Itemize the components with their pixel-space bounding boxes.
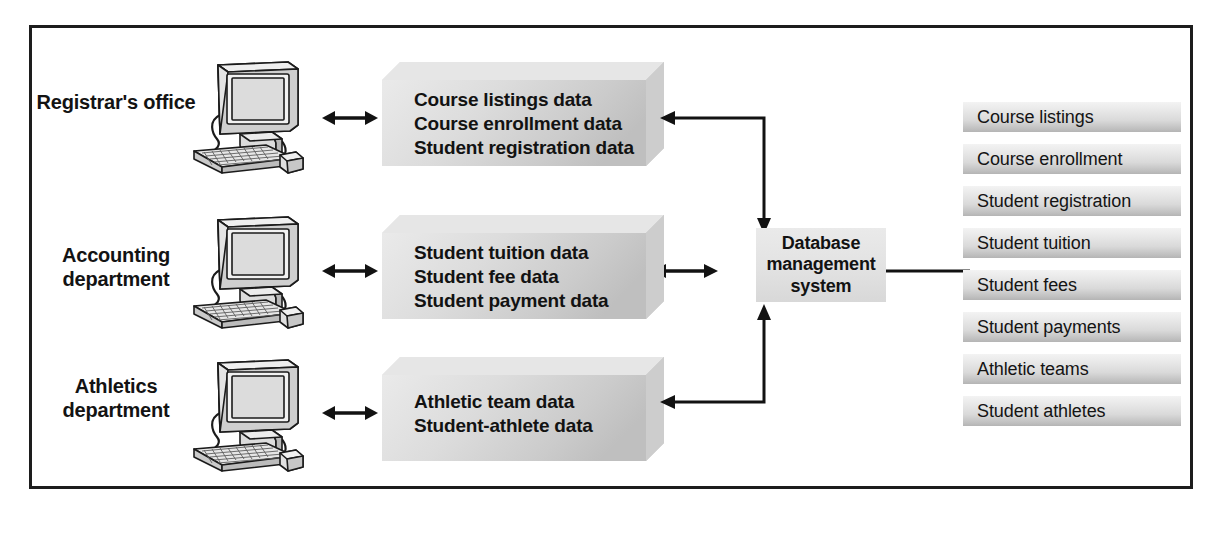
computer-icon: [172, 355, 320, 483]
data-box-text: Athletic team data Student-athlete data: [414, 390, 593, 438]
data-box-accounting: Student tuition data Student fee data St…: [382, 215, 664, 319]
data-box-registrar: Course listings data Course enrollment d…: [382, 62, 664, 166]
data-box-athletics: Athletic team data Student-athlete data: [382, 357, 664, 461]
diagram-canvas: Registrar's office Accounting department…: [0, 0, 1226, 538]
table-bar: Student payments: [963, 312, 1181, 342]
data-box-text: Course listings data Course enrollment d…: [414, 88, 634, 160]
table-bar: Student tuition: [963, 228, 1181, 258]
table-list: Course listings Course enrollment Studen…: [963, 102, 1181, 438]
dbms-box: Database management system: [756, 228, 886, 302]
table-bar-label: Course enrollment: [963, 149, 1122, 170]
table-bar: Student fees: [963, 270, 1181, 300]
computer-icon: [172, 57, 320, 185]
table-bar-label: Course listings: [963, 107, 1094, 128]
table-bar-label: Student registration: [963, 191, 1131, 212]
table-bar: Student registration: [963, 186, 1181, 216]
computer-icon: [172, 212, 320, 340]
double-arrow-icon: [322, 400, 378, 426]
table-bar-label: Student tuition: [963, 233, 1091, 254]
table-bar: Athletic teams: [963, 354, 1181, 384]
double-arrow-icon: [322, 105, 378, 131]
dbms-label: Database management system: [766, 233, 875, 298]
table-bar: Course enrollment: [963, 144, 1181, 174]
double-arrow-icon: [322, 258, 378, 284]
table-bar: Course listings: [963, 102, 1181, 132]
table-bar-label: Student fees: [963, 275, 1077, 296]
table-bar: Student athletes: [963, 396, 1181, 426]
connector-athletics-to-dbms: [660, 304, 820, 414]
table-bar-label: Athletic teams: [963, 359, 1089, 380]
connector-registrar-to-dbms: [660, 106, 820, 234]
table-bar-label: Student athletes: [963, 401, 1106, 422]
data-box-text: Student tuition data Student fee data St…: [414, 241, 608, 313]
connector-dbms-to-tables: [886, 262, 970, 272]
table-bar-label: Student payments: [963, 317, 1121, 338]
